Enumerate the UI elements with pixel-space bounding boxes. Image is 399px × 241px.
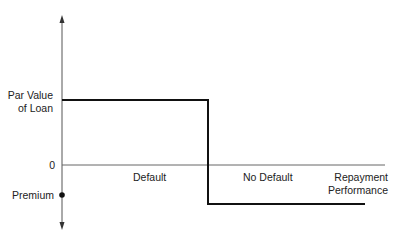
x-label-line2: Performance: [328, 184, 388, 197]
y-axis-arrow-down-icon: [60, 222, 65, 230]
y-label-premium: Premium: [12, 189, 54, 202]
y-label-zero: 0: [49, 159, 55, 172]
region-label-no-default: No Default: [243, 171, 293, 184]
y-label-par-value: Par Value of Loan: [8, 89, 53, 115]
x-axis-label: Repayment Performance: [328, 171, 388, 197]
par-value-line2: of Loan: [8, 102, 53, 115]
region-label-default: Default: [133, 171, 166, 184]
y-axis-arrow-up-icon: [60, 15, 65, 23]
x-label-line1: Repayment: [328, 171, 388, 184]
payoff-line: [62, 100, 365, 204]
payoff-chart: Par Value of Loan 0 Premium Default No D…: [0, 0, 399, 241]
chart-canvas: [0, 0, 399, 241]
par-value-line1: Par Value: [8, 89, 53, 102]
premium-marker: [59, 192, 65, 198]
